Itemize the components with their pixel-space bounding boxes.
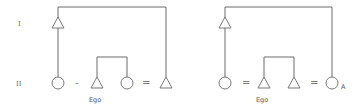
generation-label-ii: II (16, 80, 22, 88)
right-sibling-link (264, 57, 294, 77)
right-outer-link (225, 7, 332, 77)
right-marker-a: A (341, 83, 346, 91)
left-kinship-diagram: - = Ego (52, 7, 172, 104)
left-outer-link (58, 7, 166, 77)
left-ascendant-triangle-icon (52, 17, 64, 28)
left-sister-circle-icon (121, 77, 133, 89)
left-relation-2: = (142, 77, 150, 88)
generation-label-i: I (18, 20, 21, 28)
right-relation-2: = (310, 77, 318, 88)
right-kinship-diagram: = = A Ego (219, 7, 346, 104)
left-ego-label: Ego (89, 96, 101, 104)
kinship-diagram-canvas: I II - = Ego = = A Ego (0, 0, 358, 107)
left-relation-1: - (75, 77, 79, 88)
right-female-circle-icon (219, 77, 231, 89)
right-ascendant-triangle-icon (219, 17, 231, 28)
left-male-triangle-icon (160, 77, 172, 88)
right-brother-triangle-icon (288, 77, 300, 88)
left-sibling-link (97, 57, 127, 77)
left-female-circle-icon (52, 77, 64, 89)
right-ego-label: Ego (256, 96, 268, 104)
left-ego-triangle-icon (91, 77, 103, 88)
right-ego-triangle-icon (258, 77, 270, 88)
right-relation-1: = (242, 77, 250, 88)
right-female-circle-icon-a (326, 77, 338, 89)
